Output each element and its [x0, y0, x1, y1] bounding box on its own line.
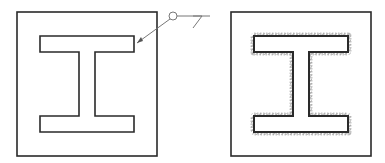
weld-diagram — [0, 0, 385, 163]
fillet-weld-triangle-icon — [193, 16, 202, 28]
left-ibeam-section — [40, 36, 134, 132]
right-ibeam-section — [254, 36, 348, 132]
weld-symbol — [137, 12, 210, 43]
right-panel — [231, 12, 371, 156]
weld-all-around-circle-icon — [169, 12, 177, 20]
arrowhead-icon — [137, 37, 143, 43]
left-panel — [17, 12, 157, 156]
left-plate — [17, 12, 157, 156]
diagram-svg — [0, 0, 385, 163]
